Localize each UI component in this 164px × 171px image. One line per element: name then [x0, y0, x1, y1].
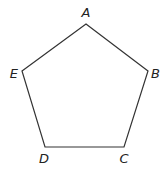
- vertex-label-b: B: [151, 66, 160, 81]
- vertex-label-d: D: [39, 151, 49, 166]
- vertex-label-e: E: [10, 66, 19, 81]
- pentagon-shape: [22, 24, 148, 147]
- vertex-label-a: A: [81, 5, 91, 20]
- vertex-label-c: C: [119, 151, 129, 166]
- pentagon-diagram: A B C D E: [0, 0, 164, 171]
